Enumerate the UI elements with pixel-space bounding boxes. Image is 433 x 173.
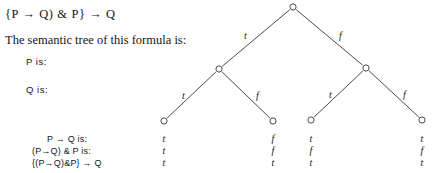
tree-edge-group: [167, 10, 419, 118]
row-label-p-implies-q: P → Q is:: [47, 134, 87, 144]
tree-node: [419, 117, 425, 123]
truth-value-cell: t: [158, 157, 170, 168]
truth-value-cell: f: [267, 145, 279, 156]
tree-node: [161, 118, 167, 124]
truth-value-cell: t: [305, 133, 317, 144]
truth-value-cell: t: [416, 157, 428, 168]
truth-value-cell: f: [416, 145, 428, 156]
tree-edge-label: t: [329, 89, 332, 100]
tree-node: [363, 65, 369, 71]
tree-edge-label: t: [182, 90, 185, 101]
truth-value-cell: t: [305, 157, 317, 168]
tree-node: [270, 118, 276, 124]
tree-edge: [167, 72, 216, 118]
truth-value-cell: t: [158, 145, 170, 156]
tree-edge-label: f: [256, 90, 259, 101]
truth-value-cell: t: [416, 133, 428, 144]
tree-edge: [314, 71, 363, 117]
tree-edge-label: t: [244, 30, 247, 41]
tree-edge: [222, 10, 289, 66]
tree-edge: [369, 71, 419, 117]
tree-edge-label: f: [339, 30, 342, 41]
tree-node-group: [161, 4, 425, 124]
truth-value-cell: t: [267, 157, 279, 168]
truth-value-cell: f: [305, 145, 317, 156]
semantic-tree-graph: [0, 0, 433, 130]
tree-node: [216, 66, 222, 72]
tree-edge: [296, 10, 362, 65]
tree-edge: [222, 72, 270, 118]
tree-node: [290, 4, 296, 10]
tree-edge-label: f: [403, 89, 406, 100]
row-label-whole-formula: {(P→Q)&P} → Q: [32, 158, 102, 168]
tree-node: [308, 117, 314, 123]
row-label-antecedent: (P→Q) & P is:: [32, 146, 91, 156]
truth-value-cell: t: [158, 133, 170, 144]
semantic-tree-figure: {P → Q) & P} → Q The semantic tree of th…: [0, 0, 433, 173]
truth-value-cell: f: [267, 133, 279, 144]
